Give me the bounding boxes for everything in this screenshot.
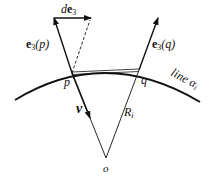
geometry-diagram: de3 e3(p) e3(q) p q ν Ri o line αi	[0, 0, 213, 178]
label-Ri: Ri	[123, 105, 134, 120]
label-e3q: e3(q)	[152, 37, 175, 52]
label-e3p: e3(p)	[26, 37, 49, 52]
label-p: p	[63, 75, 70, 89]
label-o: o	[103, 162, 109, 174]
label-q: q	[141, 73, 147, 87]
e3p-vector-arrow	[54, 18, 72, 73]
label-nu: ν	[76, 101, 83, 116]
radius-q-o	[106, 70, 139, 158]
label-de3: de3	[61, 2, 76, 17]
dashed-helper-line	[72, 20, 90, 73]
